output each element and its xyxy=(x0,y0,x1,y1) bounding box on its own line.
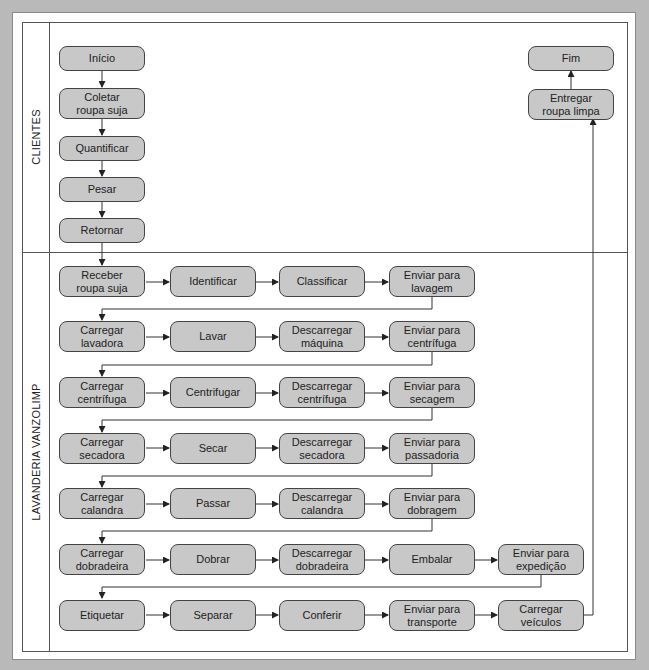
step-inicio[interactable]: Início xyxy=(59,46,145,71)
step-enviar-dobragem[interactable]: Enviar para dobragem xyxy=(389,488,475,519)
step-carregar-dobradeira[interactable]: Carregar dobradeira xyxy=(59,544,145,575)
step-pesar[interactable]: Pesar xyxy=(59,177,145,202)
lane-label-clientes: CLIENTES xyxy=(30,109,42,164)
step-carregar-calandra[interactable]: Carregar calandra xyxy=(59,488,145,519)
step-descarregar-secadora[interactable]: Descarregar secadora xyxy=(279,433,365,464)
lane-divider xyxy=(22,252,628,253)
step-separar[interactable]: Separar xyxy=(170,600,256,631)
step-enviar-passadoria[interactable]: Enviar para passadoria xyxy=(389,433,475,464)
step-descarregar-calandra[interactable]: Descarregar calandra xyxy=(279,488,365,519)
step-enviar-expedicao[interactable]: Enviar para expedição xyxy=(498,544,584,575)
step-carregar-lavadora[interactable]: Carregar lavadora xyxy=(59,321,145,352)
step-enviar-transporte[interactable]: Enviar para transporte xyxy=(389,600,475,631)
step-descarregar-dobradeira[interactable]: Descarregar dobradeira xyxy=(279,544,365,575)
step-carregar-secadora[interactable]: Carregar secadora xyxy=(59,433,145,464)
step-fim[interactable]: Fim xyxy=(528,46,614,71)
step-carregar-veiculos[interactable]: Carregar veículos xyxy=(498,600,584,631)
step-secar[interactable]: Secar xyxy=(170,433,256,464)
step-etiquetar[interactable]: Etiquetar xyxy=(59,600,145,631)
step-retornar[interactable]: Retornar xyxy=(59,218,145,243)
step-lavar[interactable]: Lavar xyxy=(170,321,256,352)
step-entregar-roupa-limpa[interactable]: Entregar roupa limpa xyxy=(528,89,614,120)
step-receber-roupa-suja[interactable]: Receber roupa suja xyxy=(59,266,145,297)
step-classificar[interactable]: Classificar xyxy=(279,266,365,297)
step-coletar-roupa-suja[interactable]: Coletar roupa suja xyxy=(59,88,145,119)
step-quantificar[interactable]: Quantificar xyxy=(59,136,145,161)
step-identificar[interactable]: Identificar xyxy=(170,266,256,297)
step-centrifugar[interactable]: Centrifugar xyxy=(170,377,256,408)
step-descarregar-maquina[interactable]: Descarregar máquina xyxy=(279,321,365,352)
step-descarregar-centrifuga[interactable]: Descarregar centrífuga xyxy=(279,377,365,408)
step-enviar-secagem[interactable]: Enviar para secagem xyxy=(389,377,475,408)
step-carregar-centrifuga[interactable]: Carregar centrífuga xyxy=(59,377,145,408)
step-embalar[interactable]: Embalar xyxy=(389,544,475,575)
step-passar[interactable]: Passar xyxy=(170,488,256,519)
step-enviar-lavagem[interactable]: Enviar para lavagem xyxy=(389,266,475,297)
lane-label-lavanderia: LAVANDERIA VANZOLIMP xyxy=(30,383,42,520)
step-enviar-centrifuga[interactable]: Enviar para centrífuga xyxy=(389,321,475,352)
step-dobrar[interactable]: Dobrar xyxy=(170,544,256,575)
step-conferir[interactable]: Conferir xyxy=(279,600,365,631)
